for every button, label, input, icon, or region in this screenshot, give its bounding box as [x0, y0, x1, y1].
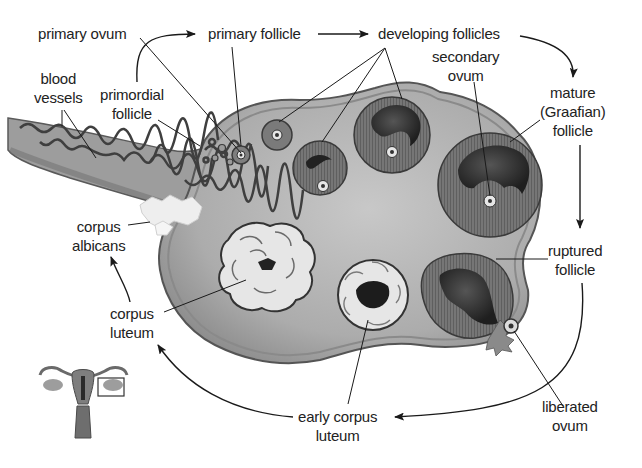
uterus-inset-icon [40, 368, 127, 438]
primary-follicle-structure [232, 146, 250, 164]
label-primary-follicle: primary follicle [208, 24, 301, 43]
label-mature-graafian-follicle: mature (Graafian) follicle [540, 83, 606, 140]
developing-follicle-medium [293, 141, 347, 195]
label-secondary-ovum: secondary ovum [432, 47, 499, 85]
label-developing-follicles: developing follicles [378, 24, 500, 43]
mature-graafian-follicle-structure [438, 133, 542, 237]
label-corpus-albicans: corpus albicans [72, 217, 125, 255]
early-corpus-luteum-structure [338, 260, 408, 330]
developing-follicle-large [354, 97, 430, 173]
label-early-corpus-luteum: early corpus luteum [298, 407, 377, 445]
corpus-luteum-structure [219, 223, 315, 311]
arrow-primordial-to-primary [137, 34, 195, 82]
label-primordial-follicle: primordial follicle [100, 85, 164, 123]
developing-follicle-small [262, 120, 292, 150]
label-ruptured-follicle: ruptured follicle [548, 241, 602, 279]
arrow-corpus-luteum-to-albicans [111, 257, 130, 302]
arrow-developing-to-mature [520, 36, 573, 77]
label-corpus-luteum: corpus luteum [110, 304, 154, 342]
label-liberated-ovum: liberated ovum [542, 397, 598, 435]
label-blood-vessels: blood vessels [34, 69, 83, 107]
label-primary-ovum: primary ovum [38, 24, 126, 43]
